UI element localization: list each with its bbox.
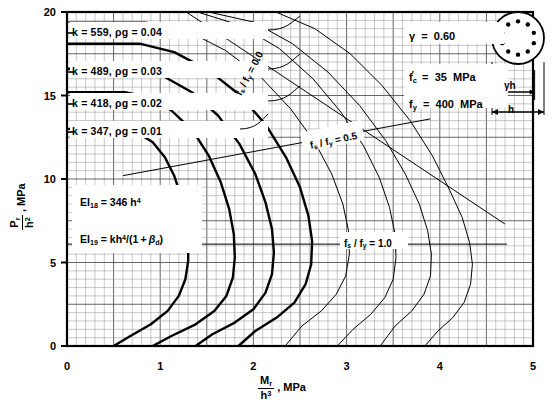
svg-text:0: 0 [64,360,70,372]
svg-text:5: 5 [50,257,56,269]
ei19-note: EI19 = kh4/(1 + βd) [80,233,163,247]
x-axis-title: Mrh3 , MPa [258,374,306,401]
k-label-3: k = 347, ρg = 0.01 [72,125,162,137]
svg-text:20: 20 [44,6,56,18]
svg-text:2: 2 [250,360,256,372]
fc-parameter: fc′ = 35 MPa [409,71,476,85]
svg-text:5: 5 [530,360,536,372]
k-label-1: k = 489, ρg = 0.03 [72,65,162,77]
svg-text:15: 15 [44,90,56,102]
gamma-h-label: γh [504,80,516,91]
svg-text:4: 4 [437,360,444,372]
y-axis-title: Prh2 , MPa [8,183,36,230]
k-label-2: k = 418, ρg = 0.02 [72,97,162,109]
svg-text:0: 0 [50,340,56,352]
ei18-note: EI18 = 346 h4 [80,196,141,210]
gamma-parameter: γ = 0.60 [409,30,455,42]
fsfy-one-label: fs / fy = 1.0 [344,238,392,249]
fy-parameter: fy = 400 MPa [409,98,483,112]
svg-text:1: 1 [157,360,163,372]
svg-text:3: 3 [344,360,350,372]
svg-text:10: 10 [44,173,56,185]
k-label-0: k = 559, ρg = 0.04 [72,26,162,38]
h-label: h [508,104,514,115]
